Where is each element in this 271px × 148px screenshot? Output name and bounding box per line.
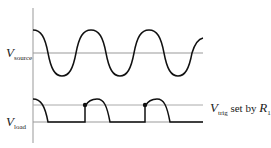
- source-label: Vsource: [6, 45, 32, 62]
- waveform-diagram: [0, 0, 271, 148]
- load-label: Vload: [6, 114, 26, 131]
- trigger-point-2: [143, 103, 147, 107]
- trigger-point-1: [83, 103, 87, 107]
- load-waveform: [33, 99, 203, 122]
- trigger-label: Vtrig set by R1: [210, 98, 271, 117]
